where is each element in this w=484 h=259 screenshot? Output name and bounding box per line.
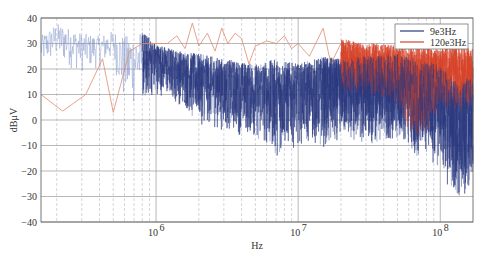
y-axis-label: dBμV [8, 107, 19, 132]
y-tick-label: −40 [21, 217, 37, 228]
x-tick-label: 10 [148, 227, 158, 238]
x-tick-label: 10 [432, 227, 442, 238]
legend: 9e3Hz 120e3Hz [395, 24, 468, 49]
x-axis-label: Hz [251, 240, 263, 251]
x-tick-exponent: 6 [160, 222, 165, 233]
x-tick-exponent: 7 [302, 222, 307, 233]
y-tick-label: −20 [21, 166, 37, 177]
x-axis-ticks: 106107108 [148, 222, 449, 238]
y-tick-label: −10 [21, 140, 37, 151]
y-tick-label: 0 [32, 115, 37, 126]
y-tick-label: 20 [27, 64, 37, 75]
y-tick-label: 10 [27, 89, 37, 100]
y-axis-ticks: 403020100−10−20−30−40 [21, 13, 37, 228]
legend-label-9e3hz: 9e3Hz [430, 26, 457, 37]
x-tick-exponent: 8 [444, 222, 449, 233]
y-tick-label: 40 [27, 13, 37, 24]
emi-spectrum-chart: 403020100−10−20−30−40 106107108 Hz dBμV … [0, 0, 484, 259]
y-tick-label: −30 [21, 191, 37, 202]
y-tick-label: 30 [27, 38, 37, 49]
x-tick-label: 10 [290, 227, 300, 238]
legend-label-120e3hz: 120e3Hz [430, 37, 467, 48]
